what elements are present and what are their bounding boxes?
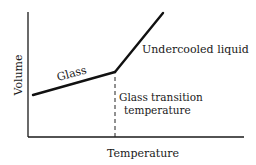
x-axis-label: Temperature bbox=[107, 147, 179, 160]
undercooled-liquid-label: Undercooled liquid bbox=[142, 43, 249, 56]
glass-transition-diagram: Volume Temperature Glass Undercooled liq… bbox=[0, 0, 256, 165]
glass-transition-label-line1: Glass transition bbox=[119, 91, 203, 103]
glass-transition-label-line2: temperature bbox=[124, 104, 191, 116]
y-axis-label: Volume bbox=[12, 54, 25, 96]
